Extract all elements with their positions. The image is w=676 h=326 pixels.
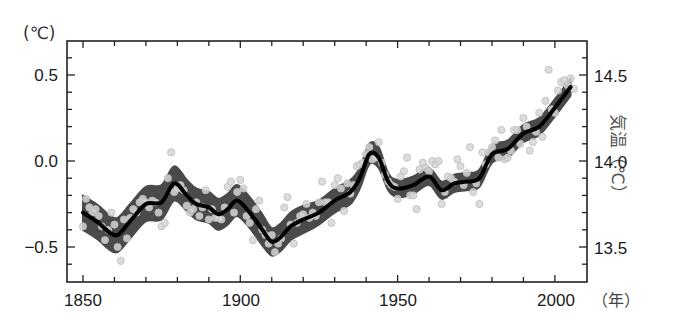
annual-data-point: [529, 139, 536, 146]
x-tick-label-2000: 2000: [537, 291, 575, 310]
annual-data-point: [498, 126, 505, 133]
annual-data-point: [341, 207, 348, 214]
annual-data-point: [454, 156, 461, 163]
annual-data-point: [83, 195, 90, 202]
annual-data-point: [526, 147, 533, 154]
y-right-tick-label-13.5: 13.5: [594, 239, 627, 258]
annual-data-point: [303, 200, 310, 207]
plot-frame: [67, 41, 587, 282]
annual-data-point: [108, 209, 115, 216]
annual-data-point: [249, 237, 256, 244]
annual-data-point: [337, 185, 344, 192]
uncertainty-band-area: [83, 78, 571, 255]
annual-data-point: [230, 209, 237, 216]
annual-data-point: [463, 169, 470, 176]
annual-data-point: [476, 200, 483, 207]
annual-data-point: [168, 149, 175, 156]
annual-data-point: [284, 194, 291, 201]
annual-data-point: [514, 126, 521, 133]
y-right-tick-label-14.5: 14.5: [594, 67, 627, 86]
annual-data-point: [79, 223, 86, 230]
annual-data-point: [123, 235, 130, 242]
annual-data-point: [256, 197, 263, 204]
annual-data-point: [457, 163, 464, 170]
annual-data-point: [237, 176, 244, 183]
annual-data-point: [394, 195, 401, 202]
x-tick-label-1950: 1950: [379, 291, 417, 310]
annual-data-point: [536, 109, 543, 116]
annual-data-point: [334, 175, 341, 182]
annual-data-point: [400, 168, 407, 175]
annual-data-point: [488, 144, 495, 151]
annual-data-point: [520, 114, 527, 121]
annual-data-point: [413, 206, 420, 213]
annual-data-point: [470, 188, 477, 195]
annual-data-point: [271, 249, 278, 256]
annual-data-point: [252, 206, 259, 213]
annual-data-point: [161, 219, 168, 226]
annual-data-point: [92, 206, 99, 213]
annual-data-point: [227, 178, 234, 185]
annual-data-point: [190, 206, 197, 213]
annual-data-point: [426, 168, 433, 175]
x-tick-label-1900: 1900: [222, 291, 260, 310]
annual-data-point: [492, 137, 499, 144]
annual-data-point: [111, 221, 118, 228]
annual-data-point: [281, 204, 288, 211]
annual-data-point: [155, 209, 162, 216]
annual-data-point: [542, 97, 549, 104]
annual-data-point: [435, 157, 442, 164]
annual-data-point: [466, 144, 473, 151]
uncertainty-band: [83, 78, 571, 255]
annual-data-point: [410, 192, 417, 199]
annual-data-point: [504, 154, 511, 161]
axis-ticks: [67, 41, 587, 282]
y-tick-label-neg0.5: −0.5: [24, 238, 58, 257]
annual-data-point: [328, 219, 335, 226]
annual-data-point: [101, 237, 108, 244]
annual-data-point: [403, 154, 410, 161]
x-axis-unit-label: （年）: [592, 291, 640, 310]
annual-data-point: [554, 87, 561, 94]
y-axis-left-unit-label: (℃): [23, 23, 55, 43]
annual-data-point: [117, 257, 124, 264]
annual-data-point: [202, 187, 209, 194]
x-tick-label-1850: 1850: [64, 291, 102, 310]
annual-data-point: [218, 216, 225, 223]
annual-data-points: [79, 66, 577, 264]
annual-data-point: [246, 219, 253, 226]
y-right-tick-label-14.0: 14.0: [594, 153, 627, 172]
annual-data-point: [545, 66, 552, 73]
annual-data-point: [567, 75, 574, 82]
annual-data-point: [539, 133, 546, 140]
annual-data-point: [240, 185, 247, 192]
annual-data-point: [196, 212, 203, 219]
annual-data-point: [375, 139, 382, 146]
annual-data-point: [366, 144, 373, 151]
annual-data-point: [438, 200, 445, 207]
annual-data-point: [114, 243, 121, 250]
annual-data-point: [164, 175, 171, 182]
annual-data-point: [290, 240, 297, 247]
annual-data-point: [319, 178, 326, 185]
annual-data-point: [95, 212, 102, 219]
y-tick-label-0.5: 0.5: [34, 66, 58, 85]
temperature-anomaly-chart: (℃) 気温（℃） 0.5 0.0 −0.5 14.5 14.0 13.5 18…: [0, 0, 676, 326]
y-tick-label-0.0: 0.0: [34, 152, 58, 171]
